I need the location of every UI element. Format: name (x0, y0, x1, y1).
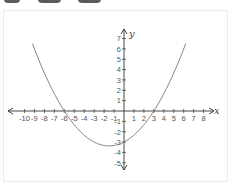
x-tick-label: -10 (19, 114, 30, 123)
y-tick-label: 4 (117, 65, 121, 74)
x-tick-label: 4 (162, 114, 166, 123)
x-tick-label: 2 (142, 114, 146, 123)
x-tick-label: -3 (91, 114, 98, 123)
x-tick-label: 7 (192, 114, 196, 123)
x-tick-label: 5 (172, 114, 176, 123)
y-tick-label: 2 (117, 86, 121, 95)
y-axis-label: y (128, 28, 135, 39)
y-tick-label: -5 (114, 159, 121, 168)
tick-labels: -10-9-8-7-6-5-4-3-2-112345678-5-4-3-2-11… (19, 34, 206, 167)
x-tick-label: -9 (31, 114, 38, 123)
y-tick-label: -4 (114, 148, 121, 157)
x-tick-label: -7 (51, 114, 58, 123)
parabola-graph: -10-9-8-7-6-5-4-3-2-112345678-5-4-3-2-11… (0, 0, 231, 185)
parabola-curve (32, 44, 185, 146)
x-tick-label: -4 (81, 114, 88, 123)
y-tick-label: 6 (117, 45, 121, 54)
y-tick-label: 1 (117, 96, 121, 105)
x-tick-label: 1 (132, 114, 136, 123)
x-tick-label: 3 (152, 114, 156, 123)
x-tick-label: 8 (202, 114, 206, 123)
x-axis-label: x (214, 105, 220, 116)
x-tick-label: -2 (101, 114, 108, 123)
x-tick-label: -6 (61, 114, 68, 123)
y-tick-label: -1 (114, 117, 121, 126)
y-tick-label: 3 (117, 76, 121, 85)
y-tick-label: 7 (117, 34, 121, 43)
y-tick-label: 5 (117, 55, 121, 64)
y-tick-label: -2 (114, 128, 121, 137)
x-tick-label: 6 (182, 114, 186, 123)
x-tick-label: -8 (41, 114, 48, 123)
